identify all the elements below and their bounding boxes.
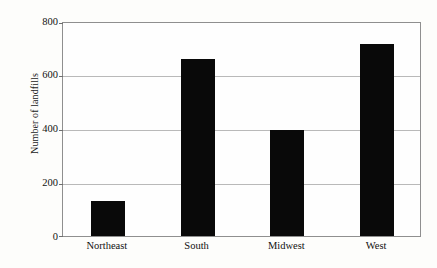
x-tick-label-northeast: Northeast bbox=[57, 240, 157, 251]
y-tick-label-200: 200 bbox=[24, 178, 58, 189]
plot-area bbox=[62, 22, 421, 237]
x-tick-label-south: South bbox=[147, 240, 247, 251]
y-tick-label-600: 600 bbox=[24, 70, 58, 81]
bar-midwest bbox=[270, 130, 304, 237]
bar-chart-figure: Number of landfills 800 600 400 200 0 No… bbox=[0, 0, 437, 268]
y-axis-tick-labels: 800 600 400 200 0 bbox=[20, 0, 58, 268]
y-tick-mark-0 bbox=[59, 236, 63, 237]
bar-northeast bbox=[91, 201, 125, 236]
y-tick-label-800: 800 bbox=[24, 17, 58, 28]
y-tick-label-400: 400 bbox=[24, 124, 58, 135]
x-tick-label-midwest: Midwest bbox=[236, 240, 336, 251]
bars-layer bbox=[63, 23, 420, 236]
y-tick-label-0: 0 bbox=[24, 232, 58, 243]
bar-west bbox=[360, 44, 394, 236]
x-axis-tick-labels: Northeast South Midwest West bbox=[62, 240, 421, 260]
x-tick-label-west: West bbox=[326, 240, 426, 251]
bar-south bbox=[181, 59, 215, 236]
